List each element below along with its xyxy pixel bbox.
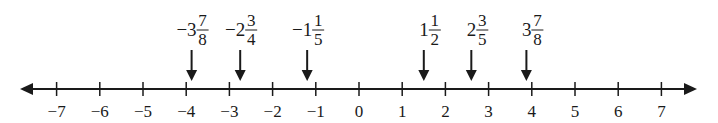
mixed-number-whole: 2 [467, 19, 477, 40]
down-arrow-icon [521, 70, 532, 81]
mixed-number-whole: −2 [225, 19, 245, 40]
fraction-numerator: 1 [431, 11, 440, 30]
fraction-denominator: 8 [533, 30, 542, 49]
down-arrow-icon [302, 70, 313, 81]
marker: 378 [521, 11, 544, 81]
fraction-denominator: 2 [431, 30, 440, 49]
tick-label: 1 [398, 102, 407, 121]
fraction-denominator: 5 [314, 30, 323, 49]
down-arrow-icon [235, 70, 246, 81]
number-line-svg: −7−6−5−4−3−2−101234567 −378−234−11511223… [0, 0, 718, 123]
down-arrow-icon [466, 70, 477, 81]
tick-label: −4 [177, 102, 196, 121]
markers: −378−234−115112235378 [176, 11, 543, 81]
tick-label: 3 [484, 102, 493, 121]
marker: 235 [466, 11, 489, 81]
fraction-numerator: 3 [478, 11, 487, 30]
ticks: −7−6−5−4−3−2−101234567 [48, 82, 667, 121]
fraction-denominator: 5 [478, 30, 487, 49]
down-arrow-icon [186, 70, 197, 81]
tick-label: −1 [307, 102, 325, 121]
tick-label: 5 [571, 102, 580, 121]
tick-label: 0 [355, 102, 364, 121]
fraction-numerator: 7 [533, 11, 542, 30]
tick-label: 4 [528, 102, 537, 121]
mixed-number-whole: −3 [176, 19, 196, 40]
fraction-numerator: 1 [314, 11, 323, 30]
down-arrow-icon [418, 70, 429, 81]
fraction-denominator: 4 [247, 30, 256, 49]
fraction-numerator: 7 [198, 11, 207, 30]
tick-label: 2 [441, 102, 450, 121]
tick-label: −6 [91, 102, 109, 121]
marker: −115 [292, 11, 324, 81]
marker: −234 [225, 11, 257, 81]
marker: 112 [418, 11, 441, 81]
tick-label: 6 [614, 102, 623, 121]
right-arrowhead-icon [684, 83, 697, 95]
fraction-numerator: 3 [247, 11, 256, 30]
tick-label: −7 [48, 102, 67, 121]
fraction-denominator: 8 [198, 30, 207, 49]
tick-label: −3 [220, 102, 238, 121]
mixed-number-whole: 1 [419, 19, 429, 40]
tick-label: 7 [657, 102, 666, 121]
mixed-number-whole: −1 [292, 19, 312, 40]
marker: −378 [176, 11, 208, 81]
mixed-number-whole: 3 [522, 19, 532, 40]
number-line-diagram: −7−6−5−4−3−2−101234567 −378−234−11511223… [0, 0, 718, 123]
tick-label: −5 [134, 102, 152, 121]
tick-label: −2 [264, 102, 282, 121]
left-arrowhead-icon [20, 83, 33, 95]
